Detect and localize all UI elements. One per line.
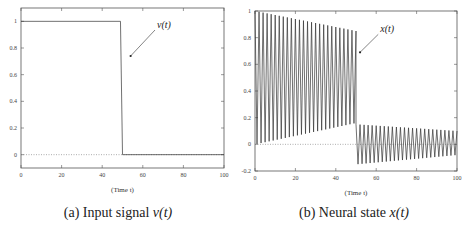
arrow-head-icon	[359, 51, 361, 53]
caption-text: (b) Neural state	[299, 205, 390, 220]
annotation-arrow	[131, 30, 155, 56]
y-tick-label: 0.4	[10, 98, 18, 104]
x-axis-label: (Time t)	[111, 186, 135, 194]
y-tick-label: 1	[14, 18, 17, 24]
x-tick-label: 100	[220, 172, 229, 178]
series-line	[21, 21, 224, 154]
arrow-head-icon	[130, 55, 132, 57]
chart-panel-neural-state: 020406080100-0.200.20.40.60.81x(t)(Time …	[236, 0, 473, 234]
y-tick-label: 0.8	[10, 45, 18, 51]
x-tick-label: 60	[373, 175, 379, 181]
annotation-label: v(t)	[157, 19, 172, 31]
x-tick-label: 100	[453, 175, 462, 181]
x-tick-label: 20	[59, 172, 65, 178]
x-axis-label: (Time t)	[345, 189, 369, 197]
y-tick-label: 0.6	[244, 61, 252, 67]
y-tick-label: 0	[248, 141, 251, 147]
y-tick-label: 0.2	[10, 125, 18, 131]
chart-input-signal: 02040608010000.20.40.60.81v(t)(Time t)	[0, 0, 236, 200]
caption-input-signal: (a) Input signal v(t)	[0, 205, 236, 221]
x-tick-label: 40	[99, 172, 105, 178]
chart-neural-state: 020406080100-0.200.20.40.60.81x(t)(Time …	[236, 0, 473, 200]
y-tick-label: 0.4	[244, 88, 252, 94]
x-tick-label: 0	[254, 175, 257, 181]
chart-panel-input-signal: 02040608010000.20.40.60.81v(t)(Time t) (…	[0, 0, 236, 234]
y-tick-label: 0.8	[244, 35, 252, 41]
x-tick-label: 0	[20, 172, 23, 178]
series-line	[255, 11, 457, 164]
caption-math: v(t)	[153, 205, 172, 220]
caption-math: x(t)	[390, 205, 409, 220]
annotation-arrow	[360, 34, 378, 52]
caption-text: (a) Input signal	[64, 205, 153, 220]
x-tick-label: 80	[414, 175, 420, 181]
x-tick-label: 40	[333, 175, 339, 181]
annotation-label: x(t)	[379, 23, 395, 35]
x-tick-label: 80	[180, 172, 186, 178]
y-tick-label: -0.2	[242, 168, 252, 174]
x-tick-label: 20	[292, 175, 298, 181]
x-tick-label: 60	[140, 172, 146, 178]
y-tick-label: 0	[14, 152, 17, 158]
y-tick-label: 1	[248, 8, 251, 14]
y-tick-label: 0.6	[10, 72, 18, 78]
y-tick-label: 0.2	[244, 115, 252, 121]
caption-neural-state: (b) Neural state x(t)	[236, 205, 472, 221]
